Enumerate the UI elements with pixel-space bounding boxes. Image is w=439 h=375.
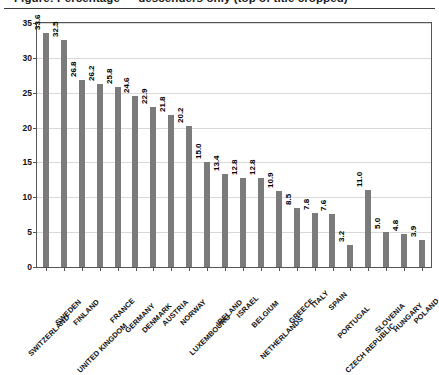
bar[interactable] — [240, 178, 246, 267]
bar[interactable] — [204, 162, 210, 267]
bar-value-label: 11.0 — [355, 172, 364, 187]
bar-value-label: 8.5 — [284, 194, 293, 205]
bar-series: 33.632.526.826.225.824.622.921.820.215.0… — [37, 23, 431, 267]
bar-value-label: 5.0 — [373, 218, 382, 229]
x-axis-category-label: PORTUGAL — [336, 304, 372, 340]
bar-value-label: 10.9 — [266, 172, 275, 188]
bar-slot: 32.5 — [55, 23, 73, 267]
bar-value-label: 20.2 — [176, 108, 185, 124]
bar[interactable] — [132, 96, 138, 267]
bar-slot: 7.8 — [306, 23, 324, 267]
y-axis-tick-label: 15 — [23, 157, 32, 167]
bar[interactable] — [383, 232, 389, 267]
bar-slot: 8.5 — [288, 23, 306, 267]
bar-slot: 22.9 — [144, 23, 162, 267]
bar-slot: 12.8 — [252, 23, 270, 267]
bar-slot: 25.8 — [109, 23, 127, 267]
bar-value-label: 7.8 — [302, 199, 311, 210]
bar-value-label: 12.8 — [230, 159, 239, 175]
bar[interactable] — [329, 214, 335, 267]
bar-slot: 24.6 — [127, 23, 145, 267]
y-axis-tick-label: 0 — [27, 262, 32, 272]
bar-value-label: 22.9 — [140, 89, 149, 105]
bar-value-label: 32.5 — [51, 22, 60, 38]
bar[interactable] — [294, 208, 300, 267]
bar-slot: 15.0 — [198, 23, 216, 267]
y-axis-tick-label: 35 — [23, 18, 32, 28]
x-axis-category-labels: SWITZERLANDSWEDENFINLANDUNITED KINGDOMFR… — [36, 270, 432, 341]
bar[interactable] — [419, 240, 425, 267]
chart-title-text: Figure: Percentage — descenders only (to… — [14, 0, 348, 4]
bar[interactable] — [43, 33, 49, 267]
bar[interactable] — [168, 115, 174, 267]
bar[interactable] — [365, 190, 371, 267]
bar-value-label: 7.6 — [319, 200, 328, 211]
x-axis-category-label: NETHERLANDS — [258, 314, 305, 361]
y-axis-tick-mark — [33, 267, 37, 268]
y-axis-tick-label: 25 — [23, 88, 32, 98]
bar[interactable] — [276, 191, 282, 267]
bar-value-label: 3.2 — [337, 231, 346, 242]
bar[interactable] — [79, 80, 85, 267]
bar-slot: 3.9 — [413, 23, 431, 267]
y-axis-tick-label: 20 — [23, 123, 32, 133]
bar-value-label: 33.6 — [33, 14, 42, 30]
bar-value-label: 13.4 — [212, 155, 221, 171]
bar[interactable] — [115, 87, 121, 267]
bar-slot: 33.6 — [37, 23, 55, 267]
bar-slot: 13.4 — [216, 23, 234, 267]
bar-value-label: 21.8 — [158, 96, 167, 112]
bar[interactable] — [97, 84, 103, 267]
bar-slot: 26.8 — [73, 23, 91, 267]
bar-chart: 05101520253035 33.632.526.826.225.824.62… — [0, 9, 439, 341]
bar[interactable] — [347, 245, 353, 267]
bar[interactable] — [150, 107, 156, 267]
bar-value-label: 12.8 — [248, 159, 257, 175]
bar[interactable] — [258, 178, 264, 267]
bar[interactable] — [222, 174, 228, 267]
bar-value-label: 24.6 — [122, 77, 131, 93]
bar-slot: 3.2 — [341, 23, 359, 267]
bar-value-label: 26.8 — [69, 62, 78, 78]
bar[interactable] — [61, 40, 67, 267]
y-axis-tick-label: 10 — [23, 192, 32, 202]
bar-value-label: 3.9 — [409, 226, 418, 237]
bar[interactable] — [401, 234, 407, 267]
bar-value-label: 26.2 — [87, 66, 96, 82]
bar[interactable] — [186, 126, 192, 267]
bar[interactable] — [312, 213, 318, 267]
y-axis-tick-label: 5 — [27, 227, 32, 237]
bar-value-label: 4.8 — [391, 219, 400, 230]
bar-value-label: 15.0 — [194, 144, 203, 160]
bar-slot: 26.2 — [91, 23, 109, 267]
plot-area: 05101520253035 33.632.526.826.225.824.62… — [36, 22, 432, 268]
bar-slot: 11.0 — [359, 23, 377, 267]
bar-value-label: 25.8 — [105, 69, 114, 85]
bar-slot: 10.9 — [270, 23, 288, 267]
bar-slot: 21.8 — [162, 23, 180, 267]
x-axis-category-label: UNITED KINGDOM — [75, 321, 129, 375]
y-axis-tick-label: 30 — [23, 53, 32, 63]
bar-slot: 12.8 — [234, 23, 252, 267]
